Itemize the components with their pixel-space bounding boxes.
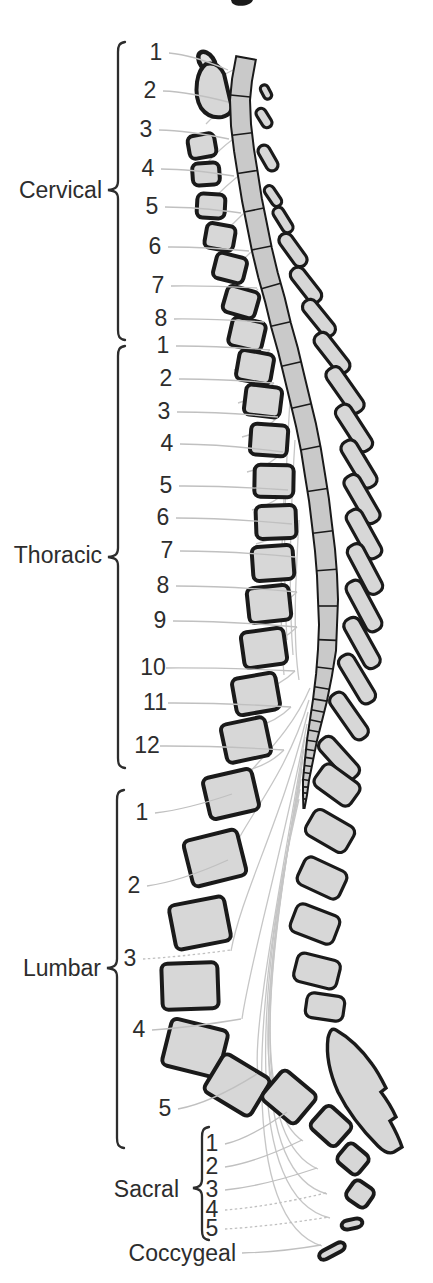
- nerve-number-thoracic-8: 8: [157, 572, 170, 598]
- nerve-number-thoracic-1: 1: [157, 332, 170, 358]
- nerve-number-lumbar-5: 5: [159, 1095, 172, 1121]
- spinous-process: [262, 184, 283, 209]
- vertebral-body: [221, 284, 260, 319]
- region-label-sacral: Sacral: [114, 1176, 179, 1202]
- leader-line-sacral-4: [225, 1193, 326, 1210]
- vertebral-body: [196, 193, 225, 218]
- nerve-number-thoracic-4: 4: [161, 430, 174, 456]
- brace-thoracic: [108, 346, 125, 768]
- cord-segment-divider: [304, 773, 311, 774]
- leader-line-cervical-7: [171, 286, 257, 288]
- spine-figure: 123456781234567891011121234512345 Cervic…: [0, 0, 433, 1283]
- nerve-number-cervical-2: 2: [144, 77, 157, 103]
- vertebral-body: [318, 1240, 347, 1261]
- nerve-number-sacral-5: 5: [206, 1215, 219, 1241]
- vertebral-body: [335, 1141, 371, 1177]
- vertebral-body: [220, 716, 272, 764]
- spinous-process: [304, 992, 345, 1022]
- region-label-lumbar: Lumbar: [23, 955, 101, 981]
- nerve-number-thoracic-9: 9: [154, 607, 167, 633]
- nerve-number-cervical-6: 6: [149, 233, 162, 259]
- nerve-line: [295, 520, 299, 680]
- nerve-number-thoracic-5: 5: [160, 472, 173, 498]
- spinous-process: [254, 106, 274, 129]
- nerve-number-cervical-1: 1: [150, 39, 163, 65]
- vertebral-body: [204, 222, 237, 252]
- nerve-number-thoracic-11: 11: [143, 689, 167, 715]
- region-label-thoracic: Thoracic: [14, 542, 102, 568]
- spinous-process: [288, 902, 342, 946]
- region-label-cervical: Cervical: [19, 177, 102, 203]
- leader-line-coccygeal: [242, 1245, 321, 1253]
- spine-diagram: 123456781234567891011121234512345 Cervic…: [0, 0, 433, 1283]
- brace-lumbar: [107, 790, 124, 1148]
- vertebral-body: [344, 1178, 376, 1210]
- vertebral-body: [254, 465, 294, 498]
- leader-line-sacral-5: [225, 1217, 329, 1229]
- nerve-number-thoracic-6: 6: [157, 504, 170, 530]
- spinous-process: [295, 855, 349, 902]
- vertebral-body: [183, 829, 248, 888]
- cord-segment-divider: [303, 780, 309, 781]
- spinous-process: [271, 205, 295, 235]
- nerve-number-thoracic-10: 10: [140, 654, 166, 680]
- nerve-number-cervical-7: 7: [152, 272, 165, 298]
- nerve-number-thoracic-3: 3: [158, 398, 171, 424]
- vertebral-body: [161, 962, 219, 1010]
- spinous-process: [303, 807, 357, 855]
- vertebral-body: [235, 349, 275, 385]
- vertebral-body: [251, 545, 294, 582]
- spinous-process: [259, 84, 273, 101]
- spinous-process: [276, 231, 310, 270]
- nerve-number-cervical-4: 4: [142, 155, 155, 181]
- nerve-number-cervical-3: 3: [140, 116, 153, 142]
- vertebral-body: [231, 672, 281, 716]
- axis-vertebra: [197, 63, 232, 117]
- vertebral-body: [243, 384, 282, 418]
- leader-line-lumbar-3: [143, 950, 231, 959]
- vertebrae-layer: [161, 0, 402, 1262]
- brace-cervical: [108, 42, 125, 340]
- vertebral-body: [168, 896, 232, 951]
- nerve-number-thoracic-12: 12: [134, 732, 160, 758]
- vertebral-body: [212, 252, 248, 285]
- vertebral-body: [240, 627, 288, 669]
- cord-segment-divider: [318, 640, 336, 641]
- nerve-number-lumbar-3: 3: [124, 945, 137, 971]
- spinous-process: [292, 952, 342, 991]
- cord-segment-divider: [304, 765, 311, 766]
- nerve-number-lumbar-2: 2: [128, 872, 141, 898]
- nerve-number-cervical-8: 8: [155, 305, 168, 331]
- spinous-process: [256, 143, 280, 173]
- leader-line-thoracic-10: [166, 668, 295, 671]
- nerve-number-thoracic-7: 7: [161, 537, 174, 563]
- nerve-number-lumbar-1: 1: [136, 799, 149, 825]
- nerve-number-lumbar-4: 4: [133, 1016, 146, 1042]
- region-label-coccygeal: Coccygeal: [129, 1240, 236, 1266]
- nerve-number-thoracic-2: 2: [160, 365, 173, 391]
- vertebral-body: [341, 1217, 363, 1230]
- skull-base-fragment: [231, 0, 253, 6]
- nerve-number-cervical-5: 5: [146, 193, 159, 219]
